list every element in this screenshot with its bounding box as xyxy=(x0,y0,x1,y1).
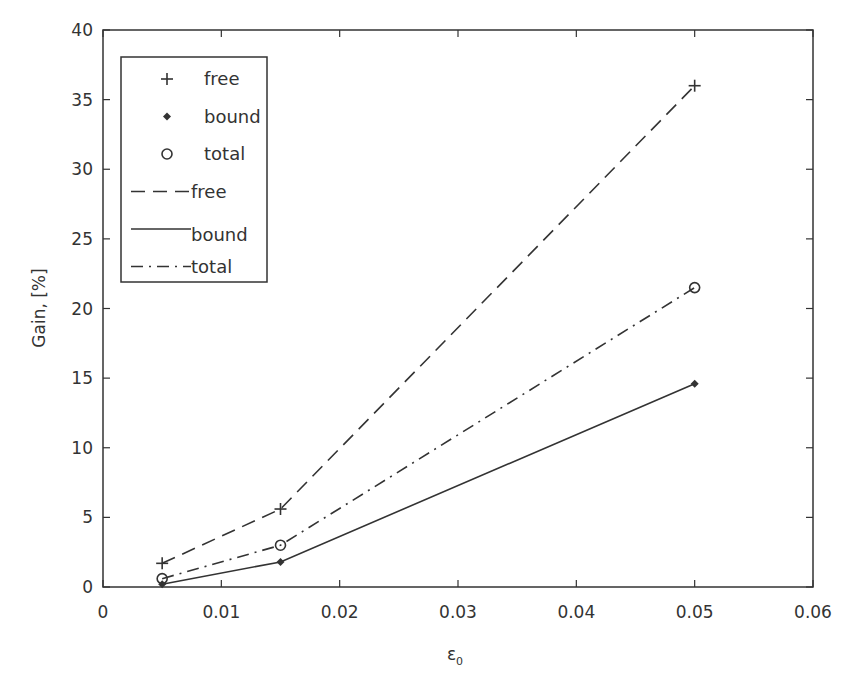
circle-marker xyxy=(690,283,700,293)
legend-label: free xyxy=(191,181,227,202)
legend-label: bound xyxy=(191,224,248,245)
y-tick-label: 0 xyxy=(82,577,93,597)
diamond-marker xyxy=(691,380,699,388)
x-tick-label: 0.01 xyxy=(202,602,240,622)
legend-box xyxy=(121,57,267,282)
legend: freeboundtotalfreeboundtotal xyxy=(121,57,267,282)
x-tick-label: 0.04 xyxy=(557,602,595,622)
legend-label: free xyxy=(204,68,240,89)
legend-label: total xyxy=(191,256,232,277)
line-chart: 00.010.020.030.040.050.06 05101520253035… xyxy=(0,0,844,684)
y-tick-label: 40 xyxy=(71,20,93,40)
y-tick-label: 5 xyxy=(82,507,93,527)
series-line-total xyxy=(162,288,695,579)
y-tick-label: 20 xyxy=(71,299,93,319)
y-tick-label: 10 xyxy=(71,438,93,458)
y-axis-label: Gain, [%] xyxy=(29,268,49,347)
diamond-marker xyxy=(277,558,285,566)
x-tick-label: 0.06 xyxy=(794,602,832,622)
series-line-bound xyxy=(162,384,695,585)
y-tick-label: 15 xyxy=(71,368,93,388)
y-tick-label: 35 xyxy=(71,90,93,110)
y-tick-label: 25 xyxy=(71,229,93,249)
x-tick-label: 0.03 xyxy=(439,602,477,622)
y-tick-label: 30 xyxy=(71,159,93,179)
x-tick-label: 0 xyxy=(98,602,109,622)
legend-label: bound xyxy=(204,106,261,127)
x-tick-label: 0.05 xyxy=(676,602,714,622)
x-tick-label: 0.02 xyxy=(321,602,359,622)
x-axis-label: ε0 xyxy=(447,644,463,668)
legend-label: total xyxy=(204,143,245,164)
